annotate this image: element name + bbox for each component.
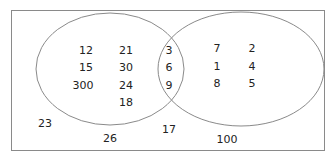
intersection-element: 3 [166,44,173,57]
set-a-element: 24 [119,79,133,92]
set-a-element: 18 [119,96,133,109]
set-b-element: 1 [214,60,221,73]
venn-svg: 12 21 15 30 300 24 18 3 6 9 7 2 1 4 8 5 … [0,0,330,158]
venn-diagram: 12 21 15 30 300 24 18 3 6 9 7 2 1 4 8 5 … [0,0,330,158]
set-a-element: 300 [73,79,94,92]
set-a-ellipse [36,13,184,125]
outside-element: 23 [38,117,52,130]
intersection-element: 9 [166,79,173,92]
set-a-element: 30 [119,61,133,74]
set-a-element: 12 [79,44,93,57]
set-b-ellipse [158,12,324,126]
set-b-element: 2 [249,42,256,55]
intersection-element: 6 [166,61,173,74]
outside-element: 17 [162,123,176,136]
outside-element: 100 [217,133,238,146]
set-b-element: 4 [249,60,256,73]
set-a-element: 15 [79,61,93,74]
outside-element: 26 [103,132,117,145]
set-b-element: 8 [214,77,221,90]
set-b-element: 5 [249,77,256,90]
set-b-element: 7 [214,42,221,55]
set-a-element: 21 [119,44,133,57]
